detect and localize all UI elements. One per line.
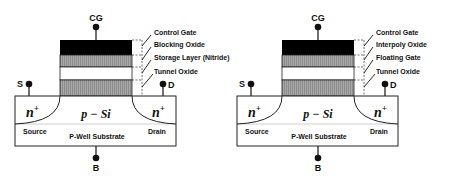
- layer-tunnel-oxide: [282, 80, 354, 96]
- layer-control-gate: [60, 40, 132, 55]
- channel-label: p − Si: [302, 107, 333, 121]
- layer-tunnel-oxide: [60, 80, 132, 96]
- body-terminal: B: [315, 146, 322, 173]
- layer-blocking-oxide: [60, 55, 132, 67]
- leader-lines: [364, 35, 375, 87]
- gate-stack: [60, 40, 132, 96]
- source-label: Source: [23, 128, 47, 135]
- diagram-floating-gate: CG Control Gate Interpoly Oxide Floating…: [237, 13, 427, 173]
- layer-label-tunnel-oxide: Tunnel Oxide: [376, 68, 420, 75]
- control-gate-terminal: CG: [311, 13, 325, 40]
- leader-lines: [142, 35, 153, 87]
- substrate-label: P-Well Substrate: [69, 133, 125, 140]
- body-terminal: B: [93, 146, 100, 173]
- layer-label-tunnel-oxide: Tunnel Oxide: [154, 68, 198, 75]
- layer-bracket: [132, 40, 142, 96]
- pin-dot-icon: [315, 155, 322, 162]
- pin-dot-icon: [93, 155, 100, 162]
- drain-label: Drain: [148, 128, 166, 135]
- substrate-label: P-Well Substrate: [291, 133, 347, 140]
- layer-label-floating-gate: Floating Gate: [376, 54, 421, 62]
- diagram-charge-trap: CG Control Gate Blocking Oxide: [15, 13, 229, 173]
- flash-cell-comparison-figure: CG Control Gate Blocking Oxide: [0, 0, 449, 183]
- layer-bracket: [354, 40, 364, 96]
- layer-label-storage-layer: Storage Layer (Nitride): [154, 54, 229, 62]
- layer-label-control-gate: Control Gate: [376, 29, 418, 36]
- source-terminal: S: [17, 79, 32, 96]
- terminal-label-b: B: [315, 163, 322, 173]
- drain-label: Drain: [370, 128, 388, 135]
- terminal-label-d: D: [390, 80, 397, 90]
- source-label: Source: [245, 128, 269, 135]
- terminal-label-cg: CG: [89, 13, 103, 23]
- terminal-label-b: B: [93, 163, 100, 173]
- terminal-label-d: D: [168, 80, 175, 90]
- layer-interpoly-oxide: [282, 55, 354, 67]
- layer-storage-nitride: [60, 67, 132, 80]
- layer-label-interpoly-oxide: Interpoly Oxide: [376, 41, 427, 49]
- layer-floating-gate: [282, 67, 354, 80]
- gate-stack: [282, 40, 354, 96]
- source-terminal: S: [239, 79, 254, 96]
- control-gate-terminal: CG: [89, 13, 103, 40]
- layer-label-control-gate: Control Gate: [154, 29, 196, 36]
- terminal-label-s: S: [17, 79, 23, 89]
- terminal-label-cg: CG: [311, 13, 325, 23]
- drain-terminal: D: [382, 80, 397, 96]
- drain-terminal: D: [160, 80, 175, 96]
- layer-label-blocking-oxide: Blocking Oxide: [154, 41, 205, 49]
- terminal-label-s: S: [239, 79, 245, 89]
- channel-label: p − Si: [80, 107, 111, 121]
- layer-control-gate: [282, 40, 354, 55]
